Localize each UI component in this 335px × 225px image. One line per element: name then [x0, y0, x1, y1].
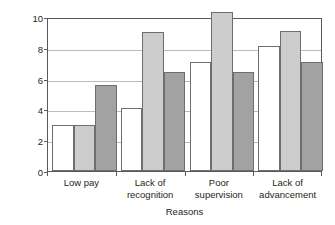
bar	[95, 85, 117, 171]
bar	[190, 62, 212, 171]
x-axis-category-label: Low pay	[47, 177, 116, 189]
x-axis-category-label: Lack of advancement	[253, 177, 322, 200]
bar	[121, 108, 143, 171]
bar	[258, 46, 280, 172]
x-axis-tick-marks	[47, 172, 322, 176]
bar	[74, 125, 96, 171]
bar	[233, 72, 255, 171]
bar	[52, 125, 74, 171]
bar-chart: Number of Occurrences 0246810 Low payLac…	[0, 0, 335, 225]
x-axis-title: Reasons	[47, 206, 322, 217]
x-axis-tick-mark	[47, 172, 48, 176]
plot-area	[47, 18, 322, 172]
bar	[280, 31, 302, 171]
bar	[164, 72, 186, 171]
x-axis-tick-mark	[253, 172, 254, 176]
x-axis-tick-mark	[116, 172, 117, 176]
x-axis-category-label: Poor supervision	[185, 177, 254, 200]
x-axis-tick-mark	[321, 172, 322, 176]
x-axis-tick-mark	[185, 172, 186, 176]
x-axis-category-label: Lack of recognition	[116, 177, 185, 200]
bar	[142, 32, 164, 171]
plot-inner	[48, 19, 321, 171]
y-axis-tick-marks	[0, 18, 50, 172]
bar	[211, 12, 233, 171]
x-axis-category-labels: Low payLack of recognitionPoor supervisi…	[47, 177, 322, 205]
bar	[301, 62, 323, 171]
